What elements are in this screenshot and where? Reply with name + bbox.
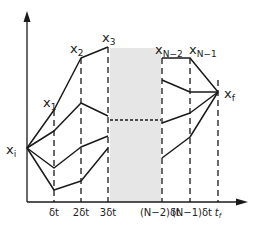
label-x-f: xf xyxy=(224,86,236,103)
tick-label-3: 3δt xyxy=(100,207,116,218)
x-axis-arrow-icon xyxy=(236,199,248,206)
trajectory-1-left xyxy=(27,47,108,148)
label-x-1: x1 xyxy=(43,95,56,112)
label-x-2: x2 xyxy=(70,41,83,58)
tick-label-n-1: (N−1)δt xyxy=(172,207,212,218)
path-discretization-diagram: xi x1 x2 x3 xN−2 xN−1 xf δt 2δt 3δt (N−2… xyxy=(0,0,257,233)
tick-label-2: 2δt xyxy=(73,207,89,218)
trajectory-4-left xyxy=(27,148,108,190)
y-axis-arrow-icon xyxy=(24,11,31,22)
tick-label-1: δt xyxy=(49,207,59,218)
tick-label-tf: tf xyxy=(215,207,223,220)
label-x-n-2: xN−2 xyxy=(155,42,183,59)
label-x-n-1: xN−1 xyxy=(189,42,217,59)
omitted-interval-band xyxy=(110,48,161,202)
label-x-3: x3 xyxy=(102,30,115,47)
label-x-i: xi xyxy=(6,142,16,159)
